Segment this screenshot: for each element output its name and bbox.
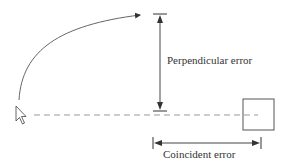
perpendicular-error-dimension — [153, 14, 167, 111]
perpendicular-error-label: Perpendicular error — [167, 54, 252, 66]
diagram-canvas — [0, 0, 288, 164]
error-diagram: Perpendicular error Coincident error — [0, 0, 288, 164]
mouse-pointer-icon — [16, 106, 26, 124]
movement-path — [19, 15, 140, 100]
coincident-error-label: Coincident error — [163, 148, 235, 160]
